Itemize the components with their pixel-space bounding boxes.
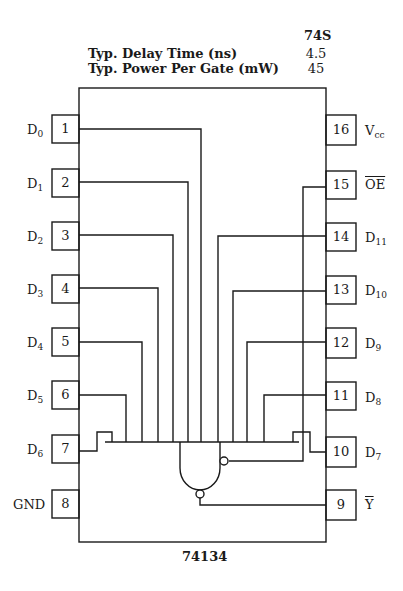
trace-oe [229, 187, 326, 461]
pin-label-sub: 1 [37, 183, 43, 193]
input-traces-right [218, 236, 326, 442]
pin-number: 13 [326, 282, 356, 298]
pin-label-text: D [365, 445, 375, 460]
pin-label-sub: 7 [375, 452, 381, 462]
pin-label-text: D [27, 335, 37, 350]
pin-number: 3 [52, 228, 79, 244]
part-number: 74134 [182, 549, 227, 564]
pin-label-text: D [365, 336, 375, 351]
pin-label-text: D [27, 122, 37, 137]
pin-number: 12 [326, 335, 356, 351]
pin-label-sub: 2 [37, 236, 43, 246]
pin-label-sub: 4 [37, 342, 43, 352]
pin-label-d10: D10 [365, 283, 387, 303]
pin-label-d11: D11 [365, 230, 387, 250]
pin-label-text: D [365, 230, 375, 245]
pin-label-sub: 11 [375, 237, 386, 247]
pin-label-text: OE [365, 177, 385, 192]
pin-label-text: D [365, 283, 375, 298]
pin-label-d3: D3 [27, 282, 43, 302]
pin-label-sub: 10 [375, 290, 386, 300]
trace-d4 [79, 342, 142, 442]
pin-label-sub: 8 [375, 397, 381, 407]
pin-label-gnd: GND [13, 497, 45, 513]
pin-number: 6 [52, 387, 79, 403]
pin-number: 1 [52, 121, 79, 137]
pin-label-text: V [365, 123, 374, 138]
trace-d5 [79, 395, 126, 442]
output-bubble [196, 490, 204, 498]
pin-label-text: D [27, 282, 37, 297]
pin-number: 10 [326, 444, 356, 460]
nand-gate [180, 442, 220, 490]
pin-label-text: GND [13, 497, 45, 512]
pin-number: 16 [326, 122, 356, 138]
pin-label-d1: D1 [27, 176, 43, 196]
pin-label-oe: OE [365, 177, 385, 193]
pin-label-d2: D2 [27, 229, 43, 249]
pin-label-text: D [27, 388, 37, 403]
enable-bubble [220, 457, 228, 465]
pin-number: 9 [326, 497, 356, 513]
pin-label-text: D [365, 390, 375, 405]
chip-body [79, 88, 326, 542]
pin-label-d5: D5 [27, 388, 43, 408]
trace-d11 [218, 236, 326, 442]
pin-label-text: D [27, 442, 37, 457]
pin-label-vcc: Vcc [365, 123, 384, 143]
pin-label-text: D [27, 229, 37, 244]
pin-number: 11 [326, 388, 356, 404]
pin-number: 5 [52, 334, 79, 350]
trace-y-output [200, 498, 326, 505]
pin-number: 14 [326, 229, 356, 245]
pin-number: 15 [326, 177, 356, 193]
pin-label-text: D [27, 176, 37, 191]
pin-label-d8: D8 [365, 390, 381, 410]
pin-number: 7 [52, 441, 79, 457]
pin-label-d4: D4 [27, 335, 43, 355]
input-traces-left [79, 129, 201, 442]
pin-label-d6: D6 [27, 442, 43, 462]
pin-label-d7: D7 [365, 445, 381, 465]
pin-label-d0: D0 [27, 122, 43, 142]
pin-number: 8 [52, 496, 79, 512]
pin-number: 2 [52, 175, 79, 191]
trace-d8 [264, 395, 326, 442]
pin-label-y: Y [365, 497, 374, 513]
pin-label-sub: 6 [37, 449, 43, 459]
pin-label-sub: 3 [37, 289, 43, 299]
pin-label-sub: cc [374, 130, 384, 140]
trace-d1 [79, 182, 188, 442]
trace-d3 [79, 288, 158, 442]
pin-label-sub: 9 [375, 343, 381, 353]
pin-label-text: Y [365, 497, 374, 512]
pin-label-sub: 5 [37, 395, 43, 405]
pin-number: 4 [52, 281, 79, 297]
pin-label-sub: 0 [37, 129, 43, 139]
trace-d9 [247, 342, 326, 442]
pin-label-d9: D9 [365, 336, 381, 356]
